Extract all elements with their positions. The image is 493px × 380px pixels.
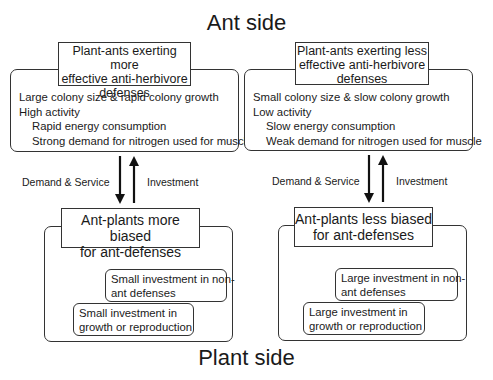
- right-non-ant-defense-box: Large investment in non- ant defenses: [335, 268, 458, 301]
- left-investment-label: Investment: [147, 176, 198, 188]
- left-non-ant-defense-box: Small investment in non- ant defenses: [105, 269, 227, 302]
- right-plant-header: Ant-plants less biased for ant-defenses: [294, 207, 433, 247]
- left-demand-service-label: Demand & Service: [22, 176, 110, 188]
- right-investment-label: Investment: [396, 175, 447, 187]
- plant-side-title: Plant side: [0, 345, 493, 371]
- right-growth-box: Large investment in growth or reproducti…: [303, 302, 425, 335]
- left-plant-header: Ant-plants more biased for ant-defenses: [61, 208, 200, 248]
- right-demand-service-label: Demand & Service: [272, 175, 360, 187]
- left-growth-box: Small investment in growth or reproducti…: [73, 303, 194, 336]
